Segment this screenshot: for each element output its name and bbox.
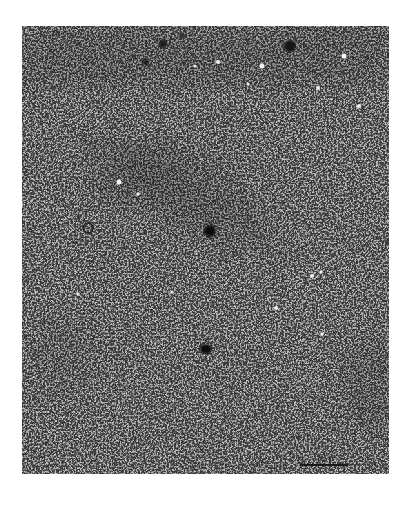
scale-bar xyxy=(300,464,348,466)
scale-bar-label: 10 μ xyxy=(316,452,334,463)
micrograph-image xyxy=(22,26,389,474)
micrograph-texture xyxy=(22,26,389,474)
